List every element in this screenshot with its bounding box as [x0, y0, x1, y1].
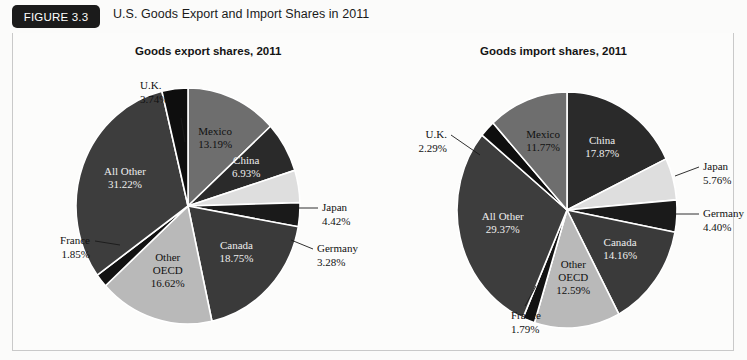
pie-label-japan: Japan4.42%: [322, 201, 350, 227]
chart-panel-import: Goods import shares, 2011 China17.87%Jap…: [385, 34, 735, 334]
figure-number-badge: FIGURE 3.3: [12, 5, 100, 28]
figure-title: U.S. Goods Export and Import Shares in 2…: [113, 7, 369, 21]
pie-label-all-other: All Other29.37%: [482, 210, 524, 235]
pie-label-all-other: All Other31.22%: [104, 165, 146, 190]
pie-label-canada: Canada14.16%: [603, 236, 637, 261]
chart-panel-export: Goods export shares, 2011 Mexico13.19%Ch…: [40, 34, 390, 334]
pie-label-mexico: Mexico11.77%: [526, 128, 560, 153]
pie-label-china: China17.87%: [585, 134, 619, 159]
pie-label-mexico: Mexico13.19%: [198, 125, 232, 150]
pie-label-canada: Canada18.75%: [219, 239, 253, 264]
pie-label-u-k: U.K.2.29%: [419, 128, 448, 154]
pie-label-germany: Germany3.28%: [317, 242, 358, 268]
pie-label-china: China6.93%: [232, 154, 260, 179]
leader-line-japan: [675, 167, 699, 176]
pie-label-other-oecd: OtherOECD16.62%: [151, 251, 185, 289]
pie-chart-import: China17.87%Japan5.76%Germany4.40%Canada1…: [385, 34, 735, 334]
pie-label-germany: Germany4.40%: [703, 207, 744, 233]
pie-chart-export: Mexico13.19%China6.93%Japan4.42%Germany3…: [40, 34, 390, 334]
figure-container: FIGURE 3.3 U.S. Goods Export and Import …: [0, 0, 747, 360]
pie-label-other-oecd: OtherOECD12.59%: [556, 258, 590, 296]
pie-label-japan: Japan5.76%: [703, 160, 731, 186]
figure-header: FIGURE 3.3 U.S. Goods Export and Import …: [0, 0, 747, 32]
